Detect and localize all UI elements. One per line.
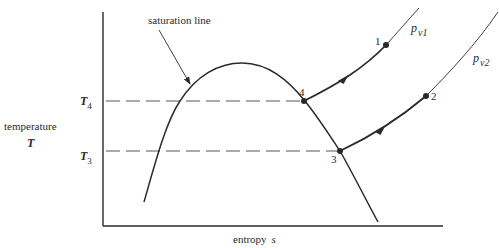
- saturation-line-label: saturation line: [148, 14, 211, 26]
- point-label-1: 1: [375, 35, 381, 47]
- state-point-3: [337, 148, 343, 154]
- y-axis-symbol: T: [27, 136, 35, 150]
- point-label-3: 3: [331, 153, 337, 165]
- t4-label: T4: [80, 94, 92, 111]
- isobar-pv2-label: pv2: [472, 51, 489, 68]
- state-point-1: [383, 42, 389, 48]
- state-point-2: [423, 93, 429, 99]
- arrow-2-to-3-icon: [375, 126, 387, 136]
- isobar-pv2-curve: [426, 12, 498, 96]
- point-label-4: 4: [299, 86, 305, 98]
- y-axis-label: temperature: [4, 120, 57, 132]
- x-axis-label: entropys: [233, 233, 276, 245]
- isobar-pv1-label: pv1: [410, 21, 427, 38]
- point-label-2: 2: [431, 90, 437, 102]
- saturation-dome-curve: [144, 63, 378, 222]
- process-1-to-4-curve: [304, 45, 386, 101]
- ts-diagram: 1 2 3 4 saturation line pv1 pv2 T4 T3 te…: [0, 0, 499, 248]
- saturation-line-leader: [159, 30, 190, 84]
- state-point-4: [301, 98, 307, 104]
- process-2-to-3-curve: [340, 96, 426, 151]
- t3-label: T3: [80, 149, 92, 166]
